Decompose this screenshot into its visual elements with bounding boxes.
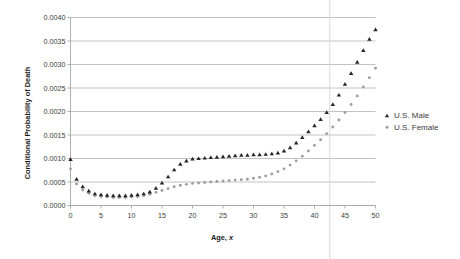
data-point-male xyxy=(178,162,182,166)
data-point-female xyxy=(331,126,334,129)
data-point-female xyxy=(252,177,255,180)
data-point-female xyxy=(179,184,182,187)
data-point-female xyxy=(209,181,212,184)
data-point-male xyxy=(160,181,164,185)
data-point-female xyxy=(81,189,84,192)
data-point-male xyxy=(129,193,133,197)
data-point-female xyxy=(264,174,267,177)
data-point-male xyxy=(331,102,335,106)
legend-label: U.S. Male xyxy=(394,111,430,120)
y-tick-label: 0.0010 xyxy=(44,154,66,163)
data-point-male xyxy=(294,141,298,145)
legend-marker-female xyxy=(386,126,389,129)
y-tick-label: 0.0015 xyxy=(44,131,66,140)
data-point-male xyxy=(233,154,237,158)
data-point-female xyxy=(222,180,225,183)
y-axis-tick-labels: 0.00000.00050.00100.00150.00200.00250.00… xyxy=(44,13,71,210)
y-tick-label: 0.0030 xyxy=(44,60,66,69)
data-point-male xyxy=(276,151,280,155)
data-point-male xyxy=(221,154,225,158)
data-point-male xyxy=(245,153,249,157)
data-point-female xyxy=(154,191,157,194)
data-point-male xyxy=(227,154,231,158)
data-point-male xyxy=(282,149,286,153)
data-point-male xyxy=(270,152,274,156)
data-point-male xyxy=(166,175,170,179)
data-point-female xyxy=(228,179,231,182)
data-point-male xyxy=(355,60,359,64)
data-point-male xyxy=(68,157,72,161)
data-point-female xyxy=(283,167,286,170)
x-tick-label: 30 xyxy=(250,211,258,220)
x-tick-label: 25 xyxy=(219,211,227,220)
data-point-male xyxy=(239,153,243,157)
x-axis-title: Age, x xyxy=(211,233,234,242)
data-point-male xyxy=(257,153,261,157)
data-point-female xyxy=(356,95,359,98)
data-point-male xyxy=(263,152,267,156)
x-axis-title-variable: x xyxy=(228,233,234,242)
data-point-male xyxy=(80,185,84,189)
data-point-male xyxy=(300,135,304,139)
scatter-chart: 0.00000.00050.00100.00150.00200.00250.00… xyxy=(0,0,460,259)
data-point-male xyxy=(361,48,365,52)
series-us-female-points xyxy=(69,67,377,199)
data-point-female xyxy=(289,164,292,167)
data-point-male xyxy=(117,194,121,198)
data-point-female xyxy=(307,150,310,153)
data-point-male xyxy=(312,123,316,127)
x-tick-label: 35 xyxy=(280,211,288,220)
data-point-female xyxy=(167,187,170,190)
data-point-male xyxy=(337,93,341,97)
data-point-female xyxy=(203,181,206,184)
data-point-male xyxy=(318,117,322,121)
y-tick-label: 0.0025 xyxy=(44,84,66,93)
data-point-male xyxy=(209,155,213,159)
data-point-male xyxy=(99,193,103,197)
chart-container: 0.00000.00050.00100.00150.00200.00250.00… xyxy=(0,0,460,259)
x-tick-label: 40 xyxy=(311,211,319,220)
data-point-female xyxy=(344,111,347,114)
data-point-male xyxy=(123,194,127,198)
data-point-male xyxy=(215,155,219,159)
data-point-male xyxy=(184,159,188,163)
data-point-female xyxy=(240,178,243,181)
data-point-female xyxy=(362,86,365,89)
data-point-male xyxy=(202,156,206,160)
data-point-female xyxy=(325,132,328,135)
data-point-female xyxy=(185,183,188,186)
data-point-male xyxy=(251,153,255,157)
data-point-male xyxy=(74,177,78,181)
data-point-male xyxy=(288,146,292,150)
data-point-female xyxy=(69,167,72,170)
x-tick-label: 50 xyxy=(372,211,380,220)
data-point-male xyxy=(93,192,97,196)
data-point-female xyxy=(337,119,340,122)
data-point-male xyxy=(172,168,176,172)
data-point-female xyxy=(246,178,249,181)
data-point-male xyxy=(343,82,347,86)
data-point-male xyxy=(141,192,145,196)
data-point-female xyxy=(368,76,371,79)
x-tick-label: 5 xyxy=(99,211,103,220)
chart-legend: U.S. MaleU.S. Female xyxy=(385,111,439,132)
data-point-female xyxy=(313,144,316,147)
y-tick-label: 0.0035 xyxy=(44,37,66,46)
y-tick-label: 0.0040 xyxy=(44,13,66,22)
x-tick-label: 20 xyxy=(189,211,197,220)
data-point-male xyxy=(324,110,328,114)
data-point-female xyxy=(161,189,164,192)
x-tick-label: 45 xyxy=(341,211,349,220)
y-tick-label: 0.0000 xyxy=(44,201,66,210)
y-tick-label: 0.0005 xyxy=(44,178,66,187)
data-point-female xyxy=(258,176,261,179)
data-point-female xyxy=(75,182,78,185)
data-point-male xyxy=(349,71,353,75)
data-point-female xyxy=(173,185,176,188)
data-point-female xyxy=(295,159,298,162)
data-point-female xyxy=(197,181,200,184)
x-axis-tick-labels: 05101520253035404550 xyxy=(69,206,380,220)
data-point-female xyxy=(234,179,237,182)
x-tick-label: 10 xyxy=(128,211,136,220)
data-point-male xyxy=(87,189,91,193)
